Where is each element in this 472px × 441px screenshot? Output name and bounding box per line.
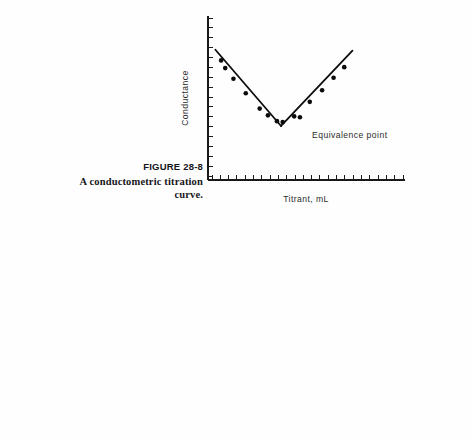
data-point — [342, 65, 347, 70]
y-axis-ticks — [208, 18, 213, 176]
fit-line — [215, 50, 281, 126]
figure-28-8: FIGURE 28-8 A conductometric titration c… — [0, 0, 472, 220]
figure-28-8-caption: FIGURE 28-8 A conductometric titration c… — [18, 160, 203, 202]
fit-line — [281, 51, 352, 126]
figure-28-8-caption-line-2: curve. — [18, 188, 203, 202]
y-axis-label: Conductance — [180, 70, 190, 126]
data-point — [275, 119, 280, 124]
data-point — [331, 75, 336, 80]
data-point — [307, 100, 312, 105]
data-point — [219, 58, 224, 63]
data-point — [280, 120, 285, 125]
x-axis-label: Titrant, mL — [283, 194, 329, 204]
data-points — [219, 58, 347, 124]
figure-28-8-caption-line-1: A conductometric titration — [18, 175, 203, 189]
data-point — [320, 88, 325, 93]
fit-lines — [215, 50, 352, 126]
data-point — [266, 113, 271, 118]
data-point — [257, 106, 262, 111]
data-point — [292, 114, 297, 119]
page-canvas: FIGURE 28-8 A conductometric titration c… — [0, 0, 472, 441]
data-point — [298, 115, 303, 120]
data-point — [243, 91, 248, 96]
x-axis-ticks — [212, 175, 403, 180]
chart-1-svg: Equivalence point Titrant, mL Conductanc… — [200, 14, 415, 214]
data-point — [223, 66, 228, 71]
figure-28-8-number: FIGURE 28-8 — [18, 160, 203, 174]
figure-28-9: FIGURE 28-9 An equivalence point can be … — [0, 220, 472, 441]
equivalence-point-label: Equivalence point — [312, 130, 388, 140]
conductometric-titration-chart: Equivalence point Titrant, mL Conductanc… — [200, 14, 415, 214]
data-point — [231, 76, 236, 81]
